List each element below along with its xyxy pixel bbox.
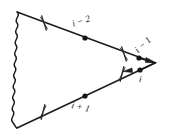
tick-mark-lower-left <box>40 104 47 120</box>
tick-mark-upper-right <box>120 46 128 62</box>
edge-photon-wavy-left <box>12 12 19 128</box>
label-i-minus-1: i − 1 <box>133 35 153 55</box>
label-i-plus-1: i + 1 <box>71 100 91 114</box>
feynman-diagram: i − 2 i − 1 i i + 1 <box>0 0 170 139</box>
label-i-minus-2: i − 2 <box>71 13 92 28</box>
vertex-dot-upper-right <box>136 55 141 60</box>
vertex-dot-lower-right <box>137 67 142 72</box>
arrowhead-upper-line <box>146 58 157 63</box>
vertex-dot-lower <box>82 93 87 98</box>
vertex-dot-upper <box>82 35 87 40</box>
label-i: i <box>138 74 142 84</box>
figure-canvas: i − 2 i − 1 i i + 1 <box>0 0 170 139</box>
tick-mark-lower-right <box>119 66 126 82</box>
